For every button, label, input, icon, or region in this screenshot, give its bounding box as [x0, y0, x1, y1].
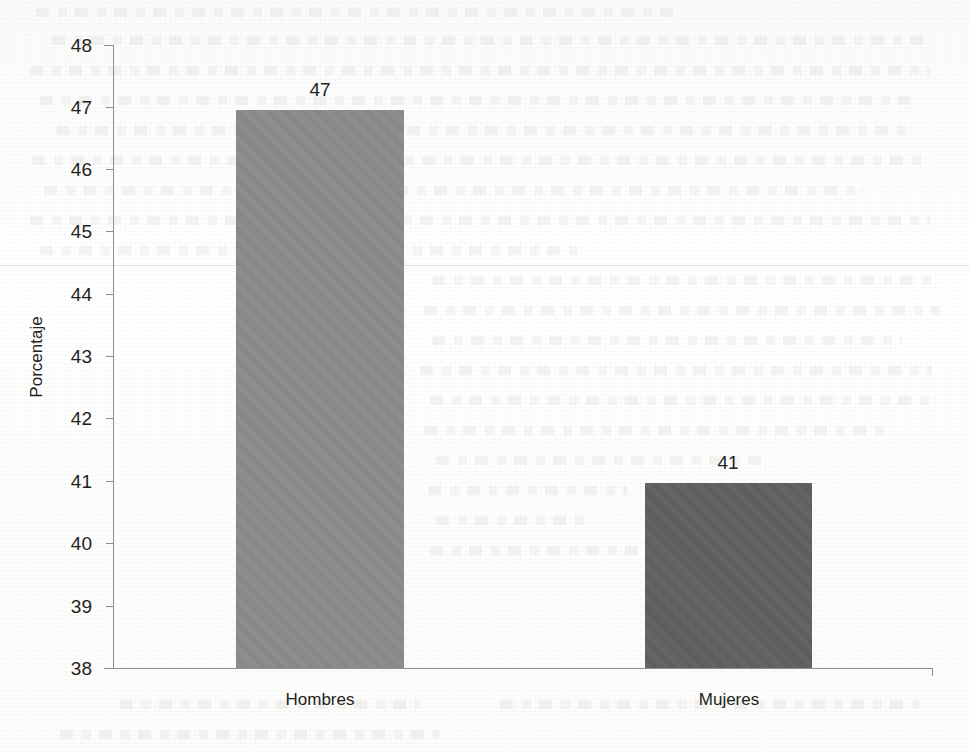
- y-axis-tick-41: [106, 481, 114, 482]
- y-axis-tick-42: [106, 418, 114, 419]
- y-axis-title: Porcentaje: [27, 302, 47, 412]
- y-axis-tick-39: [106, 606, 114, 607]
- x-axis-line: [113, 668, 933, 669]
- y-axis-label-38: 38: [44, 659, 92, 678]
- y-axis-tick-46: [106, 169, 114, 170]
- y-axis-tick-43: [106, 356, 114, 357]
- y-axis-tick-45: [106, 231, 114, 232]
- y-axis-tick-40: [106, 543, 114, 544]
- y-axis-label-48: 48: [44, 36, 92, 55]
- y-axis-label-41: 41: [44, 472, 92, 491]
- y-axis-tick-38: [104, 668, 114, 669]
- y-axis-label-39: 39: [44, 597, 92, 616]
- y-axis-label-45: 45: [44, 222, 92, 241]
- y-axis-tick-47: [106, 107, 114, 108]
- x-axis-label-mujeres: Mujeres: [649, 691, 809, 708]
- x-axis-label-hombres: Hombres: [240, 691, 400, 708]
- y-axis-label-47: 47: [44, 98, 92, 117]
- bar-value-hombres: 47: [260, 80, 380, 99]
- y-axis-label-42: 42: [44, 409, 92, 428]
- y-axis-label-46: 46: [44, 160, 92, 179]
- y-axis-tick-44: [106, 294, 114, 295]
- bar-hombres[interactable]: [236, 110, 404, 668]
- bar-value-mujeres: 41: [668, 453, 788, 472]
- y-axis-label-43: 43: [44, 347, 92, 366]
- y-axis-label-44: 44: [44, 285, 92, 304]
- bar-mujeres[interactable]: [645, 483, 812, 668]
- y-axis-label-40: 40: [44, 534, 92, 553]
- bar-chart: 48 47 46 45 44 43 42 41 40 39 38 Porcent…: [0, 0, 969, 752]
- x-axis-end-tick: [932, 668, 933, 676]
- y-axis-line: [113, 45, 114, 669]
- y-axis-tick-48: [104, 45, 114, 46]
